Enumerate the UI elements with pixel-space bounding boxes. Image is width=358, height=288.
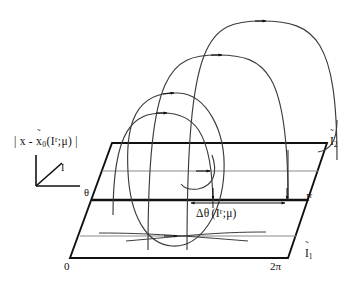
plane-piercing-arrows bbox=[213, 188, 287, 199]
mini-axes bbox=[36, 155, 80, 186]
Ir-superscript: r bbox=[310, 192, 312, 200]
left-loop bbox=[128, 93, 225, 246]
paren-close: ) bbox=[68, 135, 72, 147]
mini-axis-I-label: I bbox=[61, 163, 64, 173]
minus-symbol: - bbox=[29, 135, 33, 147]
label-two-pi: 2π bbox=[270, 261, 281, 272]
I1-group: ˜I bbox=[305, 248, 309, 260]
bar-close: | bbox=[75, 135, 78, 147]
mini-axis-I bbox=[36, 163, 62, 186]
arch-medium bbox=[148, 55, 288, 250]
figure-root: |x-˜x0(Ir;μ)| I θ ˜I2 Ir ˜I1 Δθ(Ir;μ) 0 … bbox=[0, 0, 358, 288]
left-loop-ellipse bbox=[128, 93, 225, 246]
label-origin: 0 bbox=[64, 261, 70, 272]
I2-group: ˜I bbox=[330, 136, 334, 148]
tilde-accent: ˜ bbox=[305, 241, 308, 251]
label-delta-theta: Δθ(Ir;μ) bbox=[196, 208, 237, 220]
mini-axis-theta-label: θ bbox=[84, 188, 89, 199]
label-I-tilde-1: ˜I1 bbox=[305, 248, 313, 261]
delta-symbol: Δ bbox=[196, 207, 204, 219]
x-symbol: x bbox=[20, 135, 26, 147]
I1-subscript: 1 bbox=[309, 252, 313, 261]
tilde-accent: ˜ bbox=[330, 129, 333, 139]
x-tilde-group: ˜x bbox=[36, 136, 42, 148]
tilde-accent: ˜ bbox=[37, 129, 41, 139]
label-I-tilde-2: ˜I2 bbox=[330, 136, 338, 149]
label-I-r: Ir bbox=[306, 192, 312, 203]
paren-close: ) bbox=[233, 207, 237, 219]
I2-subscript: 2 bbox=[334, 140, 338, 149]
arch-apex-arrows bbox=[156, 21, 266, 113]
theta-symbol: θ bbox=[204, 207, 210, 219]
bar-open: | bbox=[14, 135, 17, 147]
vertical-axis-label: |x-˜x0(Ir;μ)| bbox=[14, 136, 78, 149]
